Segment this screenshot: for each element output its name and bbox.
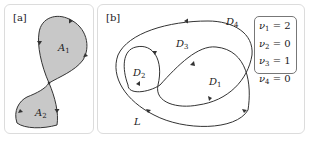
legend-row: ν4 = 0 [259,72,296,90]
winding-number-legend: ν1 = 2 ν2 = 0 ν3 = 1 ν4 = 0 [254,16,297,74]
figure-eight-curve [5,5,95,135]
region-label-a1: A1 [58,43,70,55]
panel-a: [a] A1 A2 [4,4,94,134]
region-label-d2: D2 [133,68,146,80]
region-label-d3: D3 [176,39,189,51]
region-label-d4: D4 [226,17,239,29]
region-label-a2: A2 [35,108,47,120]
legend-row: ν2 = 0 [259,37,296,55]
panel-b-tag: [b] [106,13,120,23]
panel-b: [b] D1 D2 D3 D4 L ν1 = 2 ν2 = 0 ν3 = 1 ν… [97,4,305,134]
curve-label-l: L [134,117,141,127]
panel-a-tag: [a] [13,13,27,23]
legend-row: ν3 = 1 [259,54,296,72]
legend-row: ν1 = 2 [259,19,296,37]
region-label-d1: D1 [209,77,222,89]
